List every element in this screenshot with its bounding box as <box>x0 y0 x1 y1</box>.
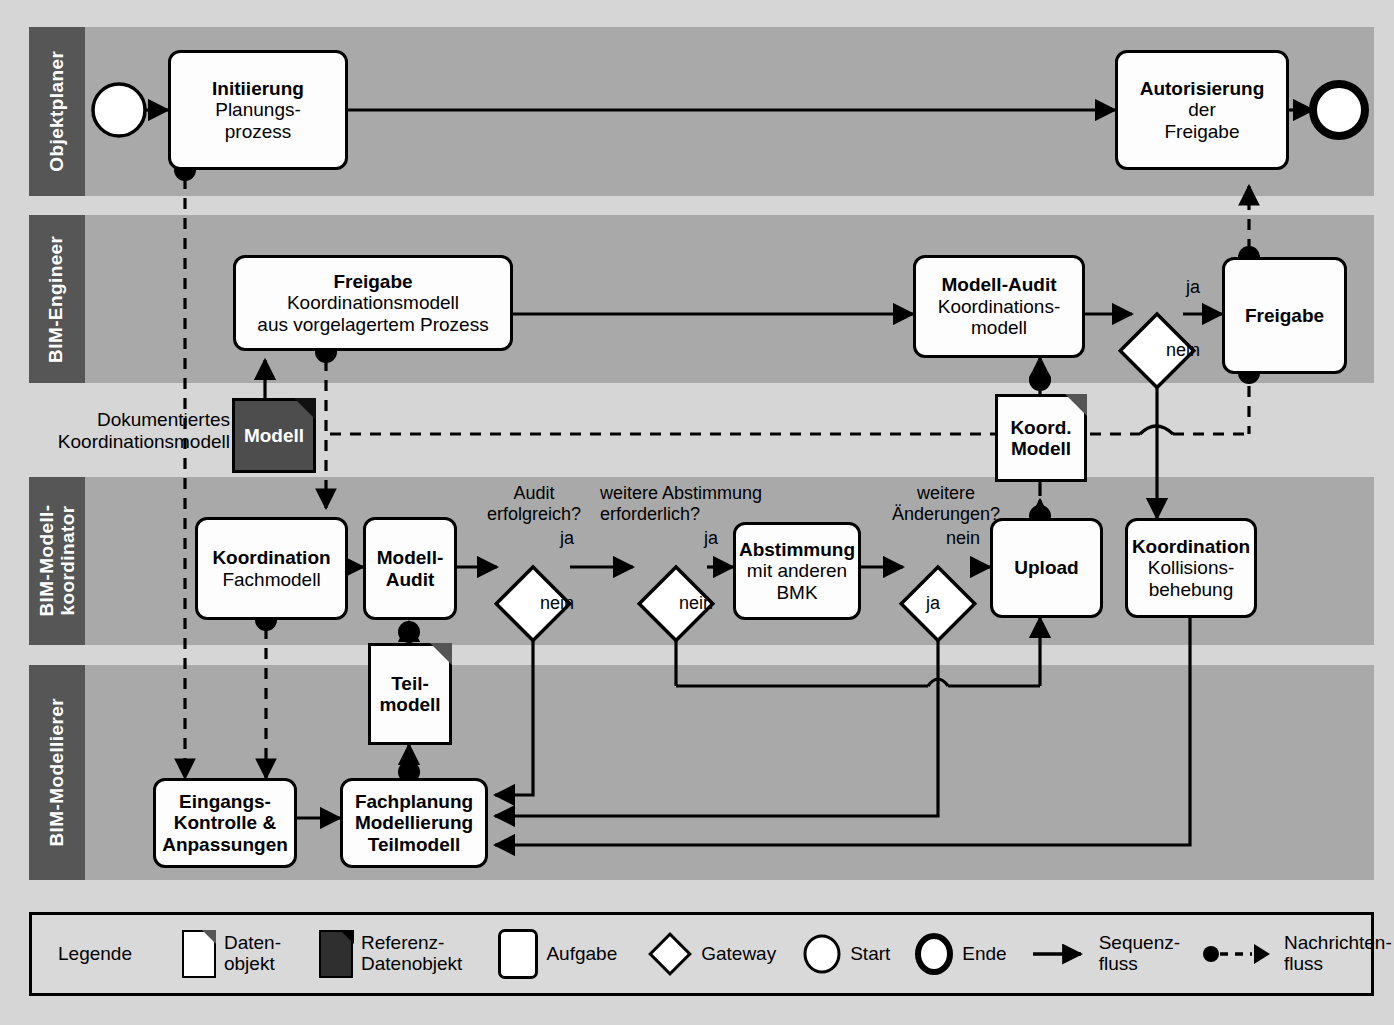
task-title: Upload <box>1014 557 1078 579</box>
lane-label-bim-modellierer: BIM-Modellierer <box>29 665 85 880</box>
task-freigabe[interactable]: Freigabe <box>1222 257 1347 374</box>
lane-label-text: Objektplaner <box>47 51 68 172</box>
annotation-line1: Audit <box>456 483 612 504</box>
legend-label-line1: Daten- <box>224 932 281 953</box>
data-object-label-line1: Koord. <box>1010 417 1071 438</box>
document-fold-icon <box>294 398 316 420</box>
annotation-dokumentiertes-koordinationsmodell: Dokumentiertes Koordinationsmodell <box>18 409 230 452</box>
document-fold-icon <box>202 930 216 944</box>
legend-item-nachrichtenfluss: Nachrichten- fluss <box>1202 933 1392 975</box>
legend-label: Ende <box>962 944 1006 965</box>
legend-item-datenobjekt: Daten- objekt <box>182 930 281 978</box>
dashed-message-arrow-icon <box>1202 939 1276 969</box>
task-icon <box>498 929 538 979</box>
task-abstimmung[interactable]: Abstimmung mit anderen BMK <box>733 522 861 620</box>
legend-label: Aufgabe <box>546 944 617 965</box>
annotation-line2: Änderungen? <box>872 504 1020 525</box>
task-title: Koordination <box>1132 536 1250 558</box>
flow-label-freigabe-nein: nein <box>1166 340 1200 360</box>
task-title: Abstimmung <box>739 539 855 561</box>
task-subtitle: mit anderen <box>747 560 847 582</box>
task-upload[interactable]: Upload <box>990 518 1103 618</box>
document-icon <box>182 930 216 978</box>
task-title: Fachplanung <box>355 791 473 813</box>
task-subtitle-2: behebung <box>1149 579 1234 601</box>
lane-label-text: BIM-Modellierer <box>47 698 68 847</box>
task-autorisierung[interactable]: Autorisierung der Freigabe <box>1115 50 1289 170</box>
task-fachplanung-modellierung-teilmodell[interactable]: Fachplanung Modellierung Teilmodell <box>340 778 488 868</box>
task-subtitle: der <box>1188 99 1215 121</box>
solid-arrow-icon <box>1031 939 1091 969</box>
flow-label-freigabe-ja: ja <box>1186 277 1200 297</box>
task-subtitle: Fachmodell <box>222 569 320 591</box>
task-subtitle: Koordinationsmodell <box>287 292 459 314</box>
lane-label-bim-modellkoordinator: BIM-Modell- koordinator <box>29 477 85 645</box>
legend-label-line2: Datenobjekt <box>361 953 462 974</box>
task-subtitle: Kollisions- <box>1148 557 1235 579</box>
task-freigabe-koordinationsmodell[interactable]: Freigabe Koordinationsmodell aus vorgela… <box>233 255 513 351</box>
annotation-weitere-aenderungen: weitere Änderungen? <box>872 483 1020 524</box>
flow-label-aenderungen-ja: ja <box>926 593 940 613</box>
reference-document-icon <box>319 930 353 978</box>
annotation-audit-erfolgreich: Audit erfolgreich? <box>456 483 612 524</box>
lane-label-bim-engineer: BIM-Engineer <box>29 215 85 383</box>
task-subtitle: Kontrolle & <box>174 812 276 834</box>
data-object-koord-modell[interactable]: Koord. Modell <box>995 394 1087 482</box>
legend-item-sequenzfluss: Sequenz- fluss <box>1031 933 1180 975</box>
start-event-icon <box>802 932 842 976</box>
task-modell-audit[interactable]: Modell- Audit <box>363 517 457 620</box>
task-title: Autorisierung <box>1140 78 1265 100</box>
task-modell-audit-koordinationsmodell[interactable]: Modell-Audit Koordinations- modell <box>913 255 1085 358</box>
legend-title: Legende <box>58 944 132 965</box>
task-eingangskontrolle-anpassungen[interactable]: Eingangs- Kontrolle & Anpassungen <box>153 778 297 868</box>
lane-label-text: BIM-Engineer <box>47 235 68 362</box>
task-title: Initiierung <box>212 78 304 100</box>
flow-label-abstimmung-ja: ja <box>704 528 718 548</box>
annotation-line1: weitere Abstimmung <box>600 483 800 504</box>
task-title: Koordination <box>212 547 330 569</box>
flow-label-abstimmung-nein: nein <box>679 593 713 613</box>
data-object-label: Modell <box>244 425 304 446</box>
annotation-line2: erfolgreich? <box>456 504 612 525</box>
document-fold-icon <box>340 930 354 944</box>
task-title: Eingangs- <box>179 791 271 813</box>
reference-data-object-modell[interactable]: Modell <box>232 398 316 473</box>
legend-label-line1: Nachrichten- <box>1284 932 1392 953</box>
flow-label-audit-nein: nein <box>540 593 574 613</box>
legend: Legende Daten- objekt Referenz- Datenobj… <box>29 912 1374 996</box>
document-fold-icon <box>1065 394 1087 416</box>
annotation-line2: erforderlich? <box>600 504 800 525</box>
legend-label: Gateway <box>701 944 776 965</box>
lane-label-text-line1: BIM-Modell- <box>35 505 56 617</box>
task-subtitle-2: Freigabe <box>1165 121 1240 143</box>
annotation-line1: weitere <box>872 483 1020 504</box>
task-subtitle-2: Teilmodell <box>368 834 461 856</box>
data-object-label-line1: Teil- <box>391 673 429 694</box>
task-subtitle-2: Anpassungen <box>162 834 288 856</box>
annotation-line1: Dokumentiertes <box>18 409 230 431</box>
task-title: Modell- <box>377 547 444 569</box>
legend-item-aufgabe: Aufgabe <box>498 929 617 979</box>
legend-label-line2: objekt <box>224 953 275 974</box>
task-initiierung[interactable]: Initiierung Planungs- prozess <box>168 50 348 170</box>
legend-item-gateway: Gateway <box>647 931 776 977</box>
legend-label-line1: Referenz- <box>361 932 444 953</box>
lane-label-text-line2: koordinator <box>56 506 77 616</box>
data-object-label-line2: Modell <box>1011 438 1071 459</box>
legend-item-start: Start <box>802 932 890 976</box>
task-subtitle-2: BMK <box>776 582 817 604</box>
flow-label-aenderungen-nein: nein <box>946 528 980 548</box>
legend-label-line2: fluss <box>1099 953 1138 974</box>
task-title: Freigabe <box>1245 305 1324 327</box>
task-subtitle: Modellierung <box>355 812 473 834</box>
legend-item-ende: Ende <box>914 931 1006 977</box>
end-event-icon <box>914 931 954 977</box>
lane-label-objektplaner: Objektplaner <box>29 27 85 196</box>
task-koordination-kollisionsbehebung[interactable]: Koordination Kollisions- behebung <box>1125 518 1257 618</box>
legend-title-text: Legende <box>58 944 132 965</box>
document-fold-icon <box>430 643 452 665</box>
task-subtitle-2: prozess <box>225 121 292 143</box>
data-object-teilmodell[interactable]: Teil- modell <box>368 643 452 745</box>
task-koordination-fachmodell[interactable]: Koordination Fachmodell <box>195 517 348 620</box>
task-title: Freigabe <box>333 271 412 293</box>
